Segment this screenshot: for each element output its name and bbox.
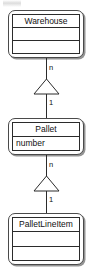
class-box-inner: Warehouse xyxy=(12,14,80,54)
class-attribute-label: number xyxy=(16,139,45,148)
uml-class-diagram: Warehouse n 1 Pallet number n 1 xyxy=(0,0,95,273)
connector-line-upper-warehouse-pallet xyxy=(46,58,47,80)
multiplicity-label-palletlineitem-side: 1 xyxy=(49,196,53,204)
class-name-compartment: Warehouse xyxy=(13,15,79,28)
connector-line-lower-warehouse-pallet xyxy=(46,94,47,118)
class-name-label: PalletLineItem xyxy=(19,220,73,229)
class-box-inner: Pallet number xyxy=(12,122,80,151)
hollow-triangle-arrowhead-icon xyxy=(33,175,60,192)
class-name-compartment: Pallet xyxy=(13,123,79,137)
class-attributes-compartment: number xyxy=(13,137,79,150)
class-operations-compartment xyxy=(13,247,79,260)
class-attributes-compartment xyxy=(13,232,79,246)
class-name-compartment: PalletLineItem xyxy=(13,218,79,232)
class-attributes-compartment xyxy=(13,28,79,41)
multiplicity-label-warehouse-side: n xyxy=(49,64,53,72)
cropped-text-artifact xyxy=(3,0,21,7)
class-operations-compartment xyxy=(13,41,79,53)
hollow-triangle-arrowhead-icon xyxy=(33,78,60,95)
class-box-palletlineitem[interactable]: PalletLineItem xyxy=(8,213,84,265)
class-box-inner: PalletLineItem xyxy=(12,217,80,261)
class-name-label: Warehouse xyxy=(24,17,67,26)
class-box-warehouse[interactable]: Warehouse xyxy=(8,10,84,58)
class-name-label: Pallet xyxy=(35,125,56,134)
connector-line-lower-pallet-palletlineitem xyxy=(46,191,47,213)
class-box-pallet[interactable]: Pallet number xyxy=(8,118,84,155)
multiplicity-label-pallet-side: 1 xyxy=(49,99,53,107)
connector-line-upper-pallet-palletlineitem xyxy=(46,155,47,177)
multiplicity-label-pallet-side-lower: n xyxy=(49,161,53,169)
